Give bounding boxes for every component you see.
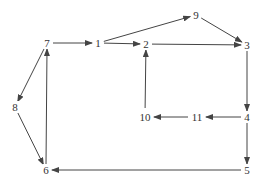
edge-1-to-2: [104, 43, 140, 44]
node-2: 2: [142, 38, 150, 50]
node-7: 7: [43, 37, 51, 49]
node-6: 6: [42, 164, 50, 176]
edge-6-to-7: [46, 49, 47, 164]
edge-7-to-8: [18, 48, 45, 101]
node-10: 10: [139, 111, 152, 123]
node-11: 11: [191, 111, 204, 123]
node-4: 4: [243, 111, 251, 123]
edge-10-to-2: [145, 50, 146, 108]
node-5: 5: [243, 164, 251, 176]
directed-graph: [0, 0, 267, 191]
edges-group: [18, 17, 247, 170]
edge-2-to-3: [152, 44, 241, 45]
node-8: 8: [11, 101, 19, 113]
edge-9-to-3: [201, 18, 242, 42]
node-3: 3: [243, 39, 251, 51]
node-1: 1: [94, 37, 102, 49]
node-9: 9: [192, 9, 200, 21]
edge-8-to-6: [18, 112, 44, 164]
